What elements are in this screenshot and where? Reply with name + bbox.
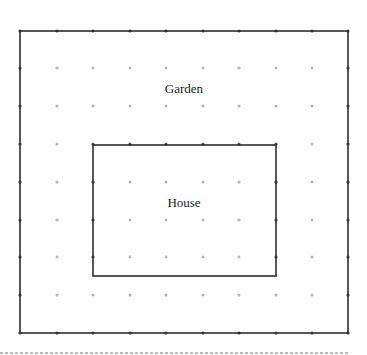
grid-dot [92,105,95,108]
grid-dot [238,67,241,70]
grid-dot [311,181,314,184]
grid-dot [275,67,278,70]
grid-dot [56,105,59,108]
grid-dot [238,294,241,297]
grid-dot [165,105,168,108]
house-boundary [93,145,276,276]
grid-dot [56,181,59,184]
grid-dot [202,105,205,108]
grid-dot [311,143,314,146]
grid-dot [56,294,59,297]
grid-dot [238,105,241,108]
grid-dot [202,219,205,222]
grid-dot [202,256,205,259]
grid-dot [92,294,95,297]
grid-dot [165,256,168,259]
house-label: House [167,195,200,210]
grid-dot [129,181,132,184]
grid-dot [202,67,205,70]
garden-label: Garden [165,81,204,96]
grid-dot [311,219,314,222]
grid-dot [238,181,241,184]
grid-dot [311,294,314,297]
grid-dot [129,67,132,70]
grid-dot [311,105,314,108]
grid-dot [165,219,168,222]
grid-dot [275,294,278,297]
grid-dot [165,181,168,184]
grid-dot [56,219,59,222]
grid-dot [238,219,241,222]
garden-house-diagram: Garden House [0,0,367,355]
grid-dot [92,67,95,70]
grid-dot [165,67,168,70]
grid-dot [129,105,132,108]
garden-boundary [20,31,348,333]
dot-grid [18,29,349,334]
grid-dot [311,67,314,70]
grid-dot [56,143,59,146]
grid-dot [275,105,278,108]
grid-dot [165,294,168,297]
grid-dot [238,256,241,259]
grid-dot [129,294,132,297]
grid-dot [56,256,59,259]
grid-dot [129,219,132,222]
grid-dot [202,294,205,297]
grid-dot [202,181,205,184]
grid-dot [311,256,314,259]
grid-dot [56,67,59,70]
grid-dot [129,256,132,259]
